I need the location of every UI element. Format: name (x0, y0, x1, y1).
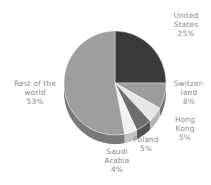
slice-label-switzerland: Switzer- land 8% (168, 79, 210, 107)
slice-label-hong-kong: Hong Kong 5% (163, 115, 207, 143)
slice-label-united-states: United States 25% (163, 11, 209, 39)
pie-slice-united-states (115, 31, 166, 83)
pie-chart: United States 25% Switzer- land 8% Hong … (0, 0, 211, 185)
slice-label-rest-of-the-world: Rest of the world 53% (4, 79, 66, 107)
pie-top-faces (64, 31, 166, 135)
slice-label-saudi-arabia: Saudi Arabia 4% (96, 147, 138, 175)
